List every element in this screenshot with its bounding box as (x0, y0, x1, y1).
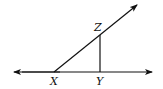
point-label-x: X (49, 75, 59, 88)
point-label-y: Y (96, 75, 105, 88)
ray-xz (54, 5, 137, 72)
geometry-diagram: Z X Y (0, 0, 163, 89)
point-label-z: Z (93, 21, 102, 34)
